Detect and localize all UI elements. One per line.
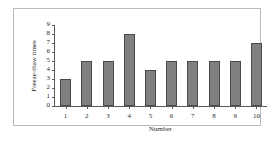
x-axis-title: Number (54, 125, 267, 134)
x-tick-mark (193, 106, 194, 109)
bar-slot: 3 (97, 25, 118, 106)
chart-figure: Freeze-thaw times 0123456789 12345678910… (0, 0, 274, 144)
x-tick-label: 10 (246, 112, 267, 121)
plot-area: 0123456789 12345678910 (54, 25, 267, 107)
x-tick-label: 5 (140, 112, 161, 121)
bar (209, 61, 220, 106)
y-tick-label: 0 (47, 101, 51, 110)
y-tick-label: 7 (47, 38, 51, 47)
bar (230, 61, 241, 106)
figure-frame: Freeze-thaw times 0123456789 12345678910… (13, 8, 261, 126)
bar-slot: 10 (246, 25, 267, 106)
x-tick-label: 1 (55, 112, 76, 121)
x-tick-label: 2 (76, 112, 97, 121)
x-tick-mark (129, 106, 130, 109)
x-tick-mark (172, 106, 173, 109)
bar (124, 34, 135, 106)
x-tick-mark (150, 106, 151, 109)
y-tick-label: 1 (47, 92, 51, 101)
bar-slot: 8 (203, 25, 224, 106)
bar (145, 70, 156, 106)
x-tick-label: 9 (225, 112, 246, 121)
x-tick-label: 4 (119, 112, 140, 121)
x-tick-mark (108, 106, 109, 109)
bar-slot: 7 (182, 25, 203, 106)
x-tick-mark (256, 106, 257, 109)
x-tick-label: 8 (203, 112, 224, 121)
x-tick-mark (235, 106, 236, 109)
bar (81, 61, 92, 106)
bar (166, 61, 177, 106)
bar-slot: 2 (76, 25, 97, 106)
y-tick-label: 6 (47, 47, 51, 56)
y-tick-label: 4 (47, 65, 51, 74)
bar-slot: 4 (119, 25, 140, 106)
x-tick-label: 3 (97, 112, 118, 121)
x-tick-mark (87, 106, 88, 109)
x-tick-mark (66, 106, 67, 109)
x-tick-label: 6 (161, 112, 182, 121)
x-tick-label: 7 (182, 112, 203, 121)
y-tick-label: 2 (47, 83, 51, 92)
bar-slot: 9 (225, 25, 246, 106)
bar-slot: 6 (161, 25, 182, 106)
y-axis-title: Freeze-thaw times (29, 25, 39, 107)
x-tick-mark (214, 106, 215, 109)
bar-slot: 5 (140, 25, 161, 106)
y-tick-label: 9 (47, 20, 51, 29)
bar (187, 61, 198, 106)
bar (103, 61, 114, 106)
bar-slot: 1 (55, 25, 76, 106)
y-tick-label: 3 (47, 74, 51, 83)
bar-series: 12345678910 (55, 25, 267, 106)
y-tick-label: 5 (47, 56, 51, 65)
bar (251, 43, 262, 106)
bar (60, 79, 71, 106)
y-tick-label: 8 (47, 29, 51, 38)
